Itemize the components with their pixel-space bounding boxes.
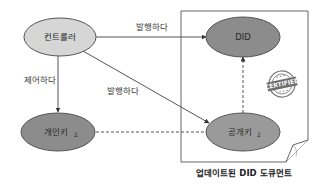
edge-label-issue-public-key: 발행하다 [107,86,139,96]
node-did: DID [206,17,280,57]
edge-label-control: 제어하다 [24,75,56,85]
node-private-key-label: 개인키 [44,127,68,137]
node-did-label: DID [235,32,251,42]
node-controller: 컨트롤러 [24,18,96,56]
document-caption: 업데이트된 DID 도큐먼트 [196,168,291,178]
node-public-key-label: 공개키 [228,127,252,137]
did-update-diagram: CERTIFIED ✦ ✦ ✦ ✦ ✦ ✦ 발행하다 제어하다 발행하다 컨트롤… [0,0,326,185]
node-public-key-subscript: 2 [257,131,261,138]
node-private-key-subscript: 2 [74,131,78,138]
edge-label-issue-did: 발행하다 [136,22,168,32]
node-public-key: 공개키 2 [206,113,280,151]
node-controller-label: 컨트롤러 [44,32,76,42]
node-private-key: 개인키 2 [21,113,95,151]
